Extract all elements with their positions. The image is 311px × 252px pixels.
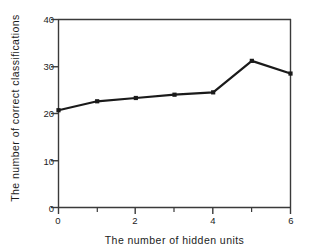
data-point-marker [250,59,254,63]
data-point-marker [56,108,60,112]
data-point-marker [134,96,138,100]
data-series-line [59,61,291,110]
data-point-marker [95,99,99,103]
x-axis-ticks [59,208,291,214]
data-point-markers [56,59,292,113]
data-point-marker [288,71,292,75]
axes-frame [58,19,291,208]
plot-canvas [0,0,311,252]
chart-figure: The number of correct classifications Th… [0,0,311,252]
data-point-marker [172,93,176,97]
y-axis-ticks [51,20,58,208]
data-point-marker [211,90,215,94]
